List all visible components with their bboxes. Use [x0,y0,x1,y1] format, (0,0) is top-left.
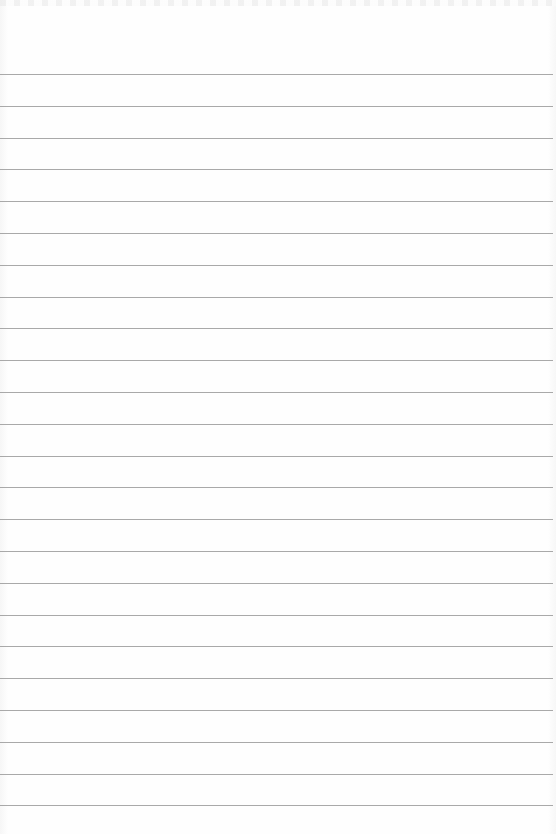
ruled-line [0,392,553,393]
ruled-line [0,774,553,775]
ruled-line [0,519,553,520]
ruled-line [0,201,553,202]
ruled-line [0,805,553,806]
ruled-line [0,710,553,711]
ruled-line [0,424,553,425]
ruled-line [0,328,553,329]
ruled-line [0,615,553,616]
ruled-line [0,360,553,361]
ruled-line [0,297,553,298]
ruled-line [0,106,553,107]
ruled-line [0,487,553,488]
ruled-line [0,265,553,266]
ruled-line [0,169,553,170]
ruled-line [0,678,553,679]
ruled-line [0,551,553,552]
ruled-line [0,138,553,139]
ruled-line [0,583,553,584]
lined-paper-sheet [0,0,556,834]
ruled-line [0,74,553,75]
ruled-line [0,742,553,743]
ruled-line [0,233,553,234]
ruled-line [0,456,553,457]
ruled-line [0,646,553,647]
top-edge-bleed-through [0,0,556,6]
